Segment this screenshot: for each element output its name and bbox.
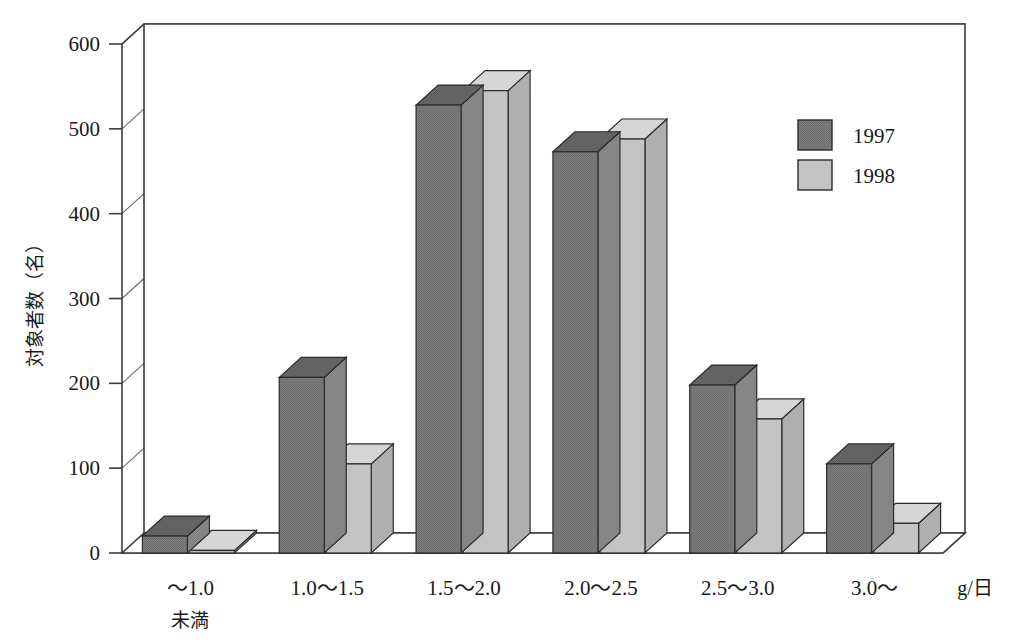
bar-side-face bbox=[508, 71, 530, 553]
x-category-label: 〜1.0 bbox=[167, 576, 214, 600]
x-category-label: 1.5〜2.0 bbox=[427, 576, 501, 600]
bar-1997-3 bbox=[553, 132, 620, 553]
bar-side-face bbox=[461, 85, 483, 553]
x-axis-unit-label: g/日 bbox=[957, 577, 993, 600]
x-category-sublabel: 未満 bbox=[171, 609, 209, 631]
legend-label-1997: 1997 bbox=[853, 124, 895, 148]
bar-front-face bbox=[279, 377, 324, 553]
bar-1997-4 bbox=[690, 365, 757, 553]
bar-side-face bbox=[782, 399, 804, 553]
y-tick-label: 500 bbox=[69, 117, 101, 141]
legend-label-1998: 1998 bbox=[853, 164, 895, 188]
x-axis-unit-text: g/日 bbox=[957, 577, 993, 600]
legend: 19971998 bbox=[795, 112, 960, 192]
x-category-label: 3.0〜 bbox=[851, 576, 898, 600]
bar-1997-1 bbox=[279, 357, 346, 553]
legend-swatch-1998 bbox=[798, 160, 832, 190]
y-tick-label: 600 bbox=[69, 32, 101, 56]
x-category-label: 2.5〜3.0 bbox=[701, 576, 775, 600]
bar-front-face bbox=[189, 550, 234, 553]
y-tick-label: 100 bbox=[69, 456, 101, 480]
legend-swatch-1997 bbox=[798, 120, 832, 150]
bar-1997-2 bbox=[416, 85, 483, 553]
x-category-label: 2.0〜2.5 bbox=[564, 576, 638, 600]
bar-1997-5 bbox=[827, 444, 894, 553]
y-tick-label: 200 bbox=[69, 371, 101, 395]
y-axis-title: 対象者数（名） bbox=[24, 234, 46, 367]
y-tick-label: 0 bbox=[90, 541, 101, 565]
bar-front-face bbox=[416, 105, 461, 553]
x-category-label: 1.0〜1.5 bbox=[291, 576, 365, 600]
y-axis-title-text: 対象者数（名） bbox=[24, 234, 46, 367]
bar-side-face bbox=[324, 357, 346, 553]
y-tick-label: 300 bbox=[69, 287, 101, 311]
bar-front-face bbox=[827, 464, 872, 553]
bar-side-face bbox=[645, 119, 667, 553]
bar-side-face bbox=[735, 365, 757, 553]
y-tick-label: 400 bbox=[69, 202, 101, 226]
bar-front-face bbox=[142, 536, 187, 553]
bar-front-face bbox=[553, 152, 598, 553]
bar-chart-canvas: 0100200300400500600 〜1.0未満1.0〜1.51.5〜2.0… bbox=[0, 0, 1035, 643]
bar-side-face bbox=[598, 132, 620, 553]
bar-front-face bbox=[690, 385, 735, 553]
chart-figure: 0100200300400500600 〜1.0未満1.0〜1.51.5〜2.0… bbox=[0, 0, 1035, 643]
